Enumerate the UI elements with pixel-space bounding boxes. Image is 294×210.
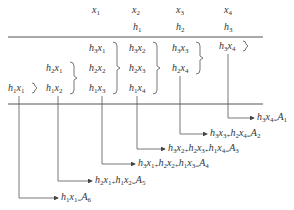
header-x1: x1 bbox=[92, 5, 100, 15]
product-term: h2x3 bbox=[129, 63, 145, 73]
header-h3: h3 bbox=[224, 22, 233, 32]
header-h2: h2 bbox=[176, 22, 185, 32]
header-x2: x2 bbox=[132, 5, 140, 15]
right-brace bbox=[243, 41, 248, 51]
product-term: h2x2 bbox=[89, 63, 105, 73]
header-x4: x4 bbox=[224, 5, 232, 15]
arrow-to-A4 bbox=[102, 104, 135, 164]
product-term: h2x4 bbox=[172, 63, 188, 73]
diagram-lines bbox=[0, 0, 294, 210]
header-x3: x3 bbox=[176, 5, 184, 15]
right-brace bbox=[32, 83, 37, 93]
product-term: h1x3 bbox=[89, 83, 105, 93]
result-A5: h2x1+h1x2=A5 bbox=[95, 175, 145, 185]
result-A1: h3x4=A1 bbox=[257, 112, 287, 122]
arrow-to-A3 bbox=[137, 104, 165, 149]
product-term: h3x2 bbox=[129, 43, 145, 53]
arrow-to-A2 bbox=[180, 104, 207, 134]
product-term: h2x1 bbox=[46, 63, 62, 73]
product-term: h1x4 bbox=[129, 83, 145, 93]
product-term: h3x1 bbox=[89, 43, 105, 53]
product-term: h3x3 bbox=[172, 43, 188, 53]
arrow-to-A1 bbox=[228, 104, 254, 118]
product-term: h1x1 bbox=[8, 83, 24, 93]
arrow-to-A6 bbox=[19, 104, 58, 198]
header-h1: h1 bbox=[133, 22, 142, 32]
product-term: h3x4 bbox=[219, 41, 235, 51]
result-A3: h3x2+h2x3+h1x4=A3 bbox=[168, 143, 239, 153]
right-brace bbox=[153, 42, 160, 94]
result-A2: h3x3+h2x4=A2 bbox=[210, 128, 260, 138]
right-brace bbox=[70, 62, 77, 94]
product-term: h1x2 bbox=[46, 83, 62, 93]
result-A4: h3x1+h2x2+h1x3=A4 bbox=[138, 158, 209, 168]
right-brace bbox=[113, 42, 120, 94]
arrow-to-A5 bbox=[58, 104, 92, 181]
right-brace bbox=[196, 42, 203, 74]
result-A6: h1x1=A6 bbox=[61, 192, 91, 202]
